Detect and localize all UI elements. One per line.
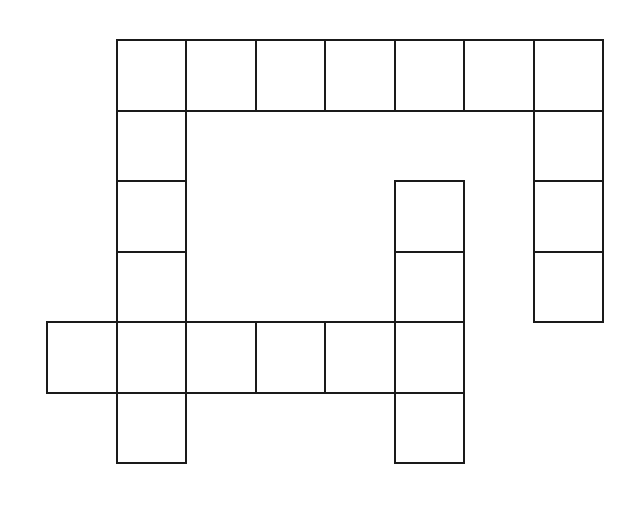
crossword-cell[interactable] <box>394 251 466 324</box>
crossword-cell[interactable] <box>116 39 188 112</box>
crossword-cell[interactable] <box>533 39 605 112</box>
crossword-cell[interactable] <box>394 180 466 253</box>
crossword-grid[interactable] <box>0 0 627 509</box>
crossword-cell[interactable] <box>185 39 257 112</box>
crossword-cell[interactable] <box>463 39 535 112</box>
crossword-cell[interactable] <box>116 251 188 324</box>
crossword-cell[interactable] <box>255 39 327 112</box>
crossword-cell[interactable] <box>185 321 257 394</box>
crossword-cell[interactable] <box>324 39 396 112</box>
crossword-cell[interactable] <box>255 321 327 394</box>
crossword-cell[interactable] <box>116 321 188 394</box>
crossword-cell[interactable] <box>116 180 188 253</box>
crossword-cell[interactable] <box>533 251 605 324</box>
crossword-cell[interactable] <box>394 392 466 465</box>
crossword-cell[interactable] <box>533 180 605 253</box>
crossword-cell[interactable] <box>324 321 396 394</box>
crossword-cell[interactable] <box>116 392 188 465</box>
crossword-cell[interactable] <box>116 110 188 183</box>
crossword-cell[interactable] <box>46 321 118 394</box>
crossword-cell[interactable] <box>394 39 466 112</box>
crossword-cell[interactable] <box>533 110 605 183</box>
crossword-cell[interactable] <box>394 321 466 394</box>
crossword-page <box>0 0 627 509</box>
